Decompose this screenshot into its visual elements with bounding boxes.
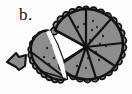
figure-panel-b: b. (0, 0, 132, 94)
panel-label: b. (19, 6, 33, 23)
